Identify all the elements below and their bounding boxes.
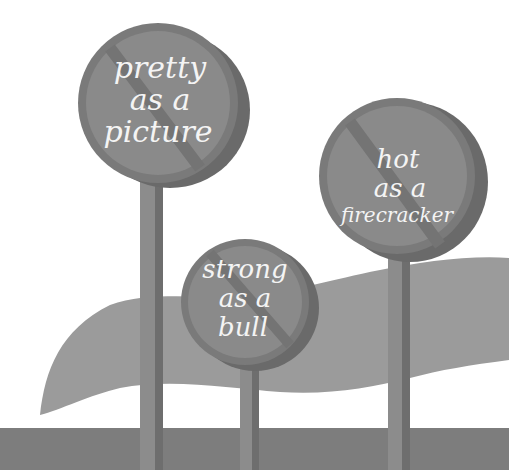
sign-2-line-3: bull [218,312,268,342]
scene: pretty as a picture hot as a firecracker… [0,0,509,470]
sign-1-line-3: picture [103,114,212,149]
sign-3-line-2: as a [374,173,427,203]
sign-3-line-1: hot [377,144,420,174]
sign-1-line-2: as a [130,82,191,117]
sign-2-line-2: as a [219,283,272,313]
sign-1-line-1: pretty [114,50,207,85]
pole-3 [388,255,410,470]
pole-1 [140,175,163,470]
sign-pretty-as-a-picture: pretty as a picture [78,23,250,188]
sign-hot-as-a-firecracker: hot as a firecracker [319,98,488,262]
sign-2-line-1: strong [202,254,287,284]
sign-3-line-3: firecracker [339,203,455,227]
